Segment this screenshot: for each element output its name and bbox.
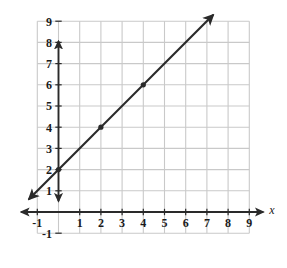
x-tick-label: 4 <box>140 216 146 230</box>
x-axis-label: x <box>269 203 274 218</box>
x-tick-label: 3 <box>119 216 125 230</box>
x-tick-label: 8 <box>225 216 231 230</box>
data-point-marker <box>141 82 146 87</box>
x-tick-label: -1 <box>32 216 42 230</box>
y-tick-label: 4 <box>46 121 52 135</box>
coordinate-plane-svg: -1123456789-1123456789 <box>0 0 287 268</box>
coordinate-plane-figure: -1123456789-1123456789 x <box>0 0 287 268</box>
grid-lines <box>37 21 249 233</box>
x-tick-label: 7 <box>204 216 210 230</box>
y-tick-label: 1 <box>46 184 52 198</box>
y-tick-label: 5 <box>46 99 52 113</box>
y-tick-label: 6 <box>46 78 52 92</box>
data-point-marker <box>56 167 61 172</box>
x-tick-label: 9 <box>246 216 252 230</box>
x-tick-label: 6 <box>183 216 189 230</box>
x-tick-label: 5 <box>162 216 168 230</box>
y-tick-label: 2 <box>46 163 52 177</box>
y-tick-label: 7 <box>46 57 52 71</box>
y-tick-label: 8 <box>46 36 52 50</box>
y-tick-label: -1 <box>42 227 52 241</box>
data-point-marker <box>98 125 103 130</box>
x-tick-label: 1 <box>77 216 83 230</box>
y-tick-label: 9 <box>46 15 52 29</box>
y-tick-label: 3 <box>46 142 52 156</box>
x-tick-label: 2 <box>98 216 104 230</box>
